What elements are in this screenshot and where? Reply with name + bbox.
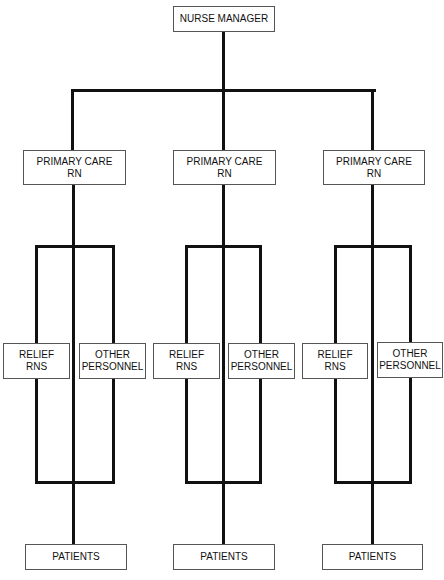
connector-to-primary-2 (222, 89, 225, 150)
other-line2: PERSONNEL (379, 360, 441, 372)
other-personnel-box-1: OTHER PERSONNEL (79, 343, 146, 379)
relief-line2: RNS (324, 361, 345, 373)
nurse-manager-box: NURSE MANAGER (173, 6, 275, 32)
other-personnel-box-2: OTHER PERSONNEL (228, 343, 295, 379)
connector-to-primary-3 (371, 89, 374, 150)
relief-rns-box-2: RELIEF RNS (153, 343, 220, 379)
primary-care-line1: PRIMARY CARE (37, 156, 113, 168)
patients-label: PATIENTS (52, 551, 99, 563)
primary-care-rn-box-1: PRIMARY CARE RN (23, 150, 126, 185)
primary-care-rn-box-3: PRIMARY CARE RN (323, 150, 425, 185)
patients-label: PATIENTS (200, 551, 247, 563)
patients-box-1: PATIENTS (25, 544, 127, 570)
relief-line1: RELIEF (317, 349, 352, 361)
patients-box-2: PATIENTS (173, 544, 275, 570)
patients-box-3: PATIENTS (322, 544, 423, 570)
primary-care-line1: PRIMARY CARE (187, 156, 263, 168)
connector-to-primary-1 (71, 89, 74, 150)
relief-line1: RELIEF (169, 349, 204, 361)
primary-care-rn-box-2: PRIMARY CARE RN (173, 150, 276, 185)
relief-rns-box-3: RELIEF RNS (302, 343, 368, 379)
other-line1: OTHER (95, 349, 130, 361)
nurse-manager-label: NURSE MANAGER (180, 13, 268, 25)
other-line2: PERSONNEL (231, 361, 293, 373)
primary-care-line2: RN (67, 168, 81, 180)
relief-line1: RELIEF (19, 349, 54, 361)
connector-root-down (222, 31, 225, 92)
other-line1: OTHER (244, 349, 279, 361)
patients-label: PATIENTS (349, 551, 396, 563)
primary-care-line2: RN (367, 168, 381, 180)
other-line2: PERSONNEL (82, 361, 144, 373)
other-personnel-box-3: OTHER PERSONNEL (377, 342, 443, 378)
relief-rns-box-1: RELIEF RNS (3, 343, 70, 379)
primary-care-line1: PRIMARY CARE (336, 156, 412, 168)
other-line1: OTHER (393, 348, 428, 360)
relief-line2: RNS (26, 361, 47, 373)
primary-care-line2: RN (217, 168, 231, 180)
relief-line2: RNS (176, 361, 197, 373)
